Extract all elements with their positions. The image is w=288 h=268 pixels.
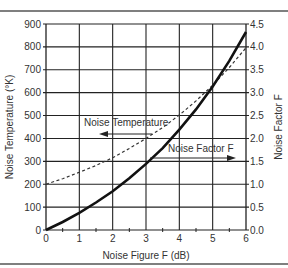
y-tick-label: 500 <box>24 110 41 121</box>
y-tick-label: 400 <box>24 133 41 144</box>
y2-tick-label: 4.0 <box>250 41 264 52</box>
y2-tick-label: 3.0 <box>250 87 264 98</box>
y2-tick-label: 4.5 <box>250 19 264 30</box>
arrow-right-icon <box>227 155 236 161</box>
x-tick-label: 0 <box>43 233 49 244</box>
y2-tick-label: 3.5 <box>250 64 264 75</box>
y-tick-label: 300 <box>24 156 41 167</box>
x-tick-label: 4 <box>177 233 183 244</box>
y-tick-label: 0 <box>35 225 41 236</box>
noise-chart: 012345601002003004005006007008009000.00.… <box>0 0 288 268</box>
y2-tick-label: 2.5 <box>250 110 264 121</box>
y2-axis-label: Noise Factor F <box>273 94 284 160</box>
y-tick-label: 200 <box>24 179 41 190</box>
noise-factor-annotation: Noise Factor F <box>168 143 234 154</box>
x-tick-label: 1 <box>77 233 83 244</box>
y2-tick-label: 2.0 <box>250 133 264 144</box>
axis-ticks: 012345601002003004005006007008009000.00.… <box>24 19 264 245</box>
y2-tick-label: 0.5 <box>250 202 264 213</box>
y-tick-label: 900 <box>24 19 41 30</box>
y-axis-label: Noise Temperature (°K) <box>4 75 15 179</box>
y-tick-label: 700 <box>24 64 41 75</box>
y2-tick-label: 0.0 <box>250 225 264 236</box>
y-tick-label: 600 <box>24 87 41 98</box>
x-tick-label: 2 <box>110 233 116 244</box>
x-tick-label: 3 <box>143 233 149 244</box>
x-tick-label: 5 <box>210 233 216 244</box>
y-tick-label: 100 <box>24 202 41 213</box>
y2-tick-label: 1.0 <box>250 179 264 190</box>
y2-tick-label: 1.5 <box>250 156 264 167</box>
arrow-left-icon <box>99 131 108 137</box>
x-tick-label: 6 <box>243 233 249 244</box>
y-tick-label: 800 <box>24 41 41 52</box>
x-axis-label: Noise Figure F (dB) <box>102 250 189 261</box>
noise-temperature-annotation: Noise Temperature <box>84 117 169 128</box>
